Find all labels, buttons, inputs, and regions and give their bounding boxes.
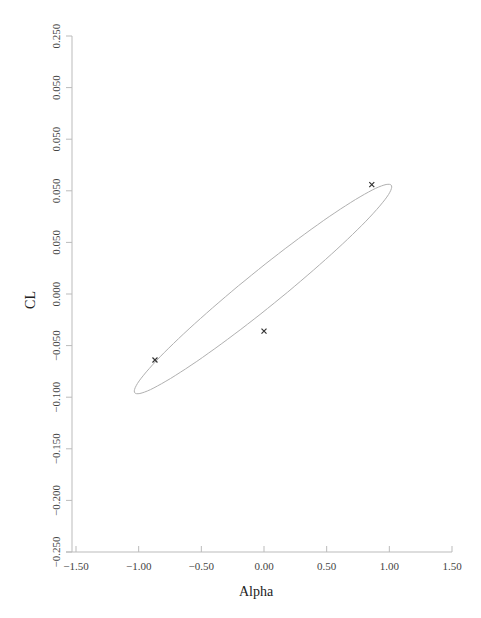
y-axis: 0.2500.0500.0500.0500.0500.000−0.050−0.1…: [50, 23, 72, 567]
y-tick-label: 0.000: [50, 281, 62, 306]
x-tick-label: 1.00: [380, 560, 400, 572]
y-tick-label: −0.250: [50, 536, 62, 567]
y-tick-label: 0.050: [50, 75, 62, 100]
x-tick-label: 0.50: [317, 560, 337, 572]
x-marker-point: [369, 182, 374, 187]
x-tick-label: −1.00: [126, 560, 152, 572]
y-ticks: 0.2500.0500.0500.0500.0500.000−0.050−0.1…: [50, 23, 72, 567]
x-axis-title: Alpha: [239, 584, 274, 599]
y-axis-title: CL: [23, 291, 38, 309]
y-tick-label: 0.050: [50, 126, 62, 151]
y-tick-label: −0.200: [50, 484, 62, 515]
y-tick-label: −0.100: [50, 381, 62, 412]
chart: 0.2500.0500.0500.0500.0500.000−0.050−0.1…: [0, 0, 481, 618]
y-tick-label: 0.050: [50, 230, 62, 255]
x-axis: −1.50−1.00−0.500.000.501.001.50: [63, 546, 462, 572]
y-tick-label: −0.050: [50, 330, 62, 361]
y-tick-label: 0.050: [50, 178, 62, 203]
x-tick-label: −0.50: [189, 560, 215, 572]
x-tick-label: 1.50: [442, 560, 462, 572]
y-tick-label: −0.150: [50, 433, 62, 464]
x-ticks: −1.50−1.00−0.500.000.501.001.50: [63, 546, 462, 572]
plot-area: [134, 182, 391, 394]
confidence-ellipse: [134, 184, 391, 393]
y-tick-label: 0.250: [50, 23, 62, 48]
x-tick-label: 0.00: [254, 560, 274, 572]
x-tick-label: −1.50: [63, 560, 89, 572]
x-marker-point: [262, 329, 267, 334]
